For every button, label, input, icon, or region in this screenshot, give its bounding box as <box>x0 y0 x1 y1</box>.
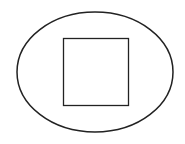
diagram-canvas <box>0 0 185 144</box>
background <box>0 0 185 144</box>
